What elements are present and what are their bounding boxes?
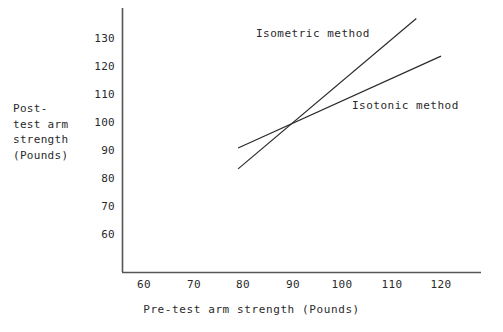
x-tick-label-110: 110 [377, 278, 407, 291]
x-axis-title: Pre-test arm strength (Pounds) [0, 303, 503, 316]
y-tick-label-120: 120 [85, 60, 115, 73]
y-tick-label-80: 80 [85, 172, 115, 185]
y-axis-title-line-2: test arm [13, 117, 99, 133]
x-tick-label-120: 120 [426, 278, 456, 291]
chart-figure: 130 120 110 100 90 80 70 60 60 70 80 90 … [0, 0, 503, 332]
y-tick-label-130: 130 [85, 32, 115, 45]
x-tick-label-70: 70 [179, 278, 209, 291]
y-tick-label-60: 60 [85, 228, 115, 241]
series-annotation-isometric-method: Isometric method [256, 27, 370, 40]
y-tick-label-110: 110 [85, 88, 115, 101]
x-tick-label-80: 80 [228, 278, 258, 291]
y-axis-title: Post- test arm strength (Pounds) [13, 101, 99, 163]
x-tick-label-90: 90 [278, 278, 308, 291]
x-tick-label-100: 100 [327, 278, 357, 291]
y-tick-label-70: 70 [85, 200, 115, 213]
series-line-isometric-method [238, 19, 416, 169]
y-axis-title-line-4: (Pounds) [13, 148, 99, 164]
x-tick-label-60: 60 [129, 278, 159, 291]
y-axis-title-line-1: Post- [13, 101, 99, 117]
y-axis-title-line-3: strength [13, 132, 99, 148]
series-annotation-isotonic-method: Isotonic method [352, 99, 459, 112]
